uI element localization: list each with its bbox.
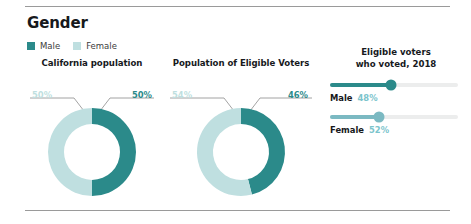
slider-panel-title-line1: Eligible voters (330, 46, 462, 58)
slider-group-male: Male 48% (330, 83, 462, 103)
slider-female[interactable] (330, 115, 458, 119)
donut-wrap-eligible: 54% 46% (162, 70, 320, 198)
female-swatch-icon (73, 42, 81, 50)
slider-male[interactable] (330, 83, 458, 87)
donut-label-female-eligible: 54% (172, 90, 192, 100)
slider-fill-female (330, 115, 379, 119)
donut-label-male-california: 50% (132, 90, 152, 100)
chart-eligible-voters-population: Population of Eligible Voters 54% 46% (162, 58, 320, 198)
page-title: Gender (27, 14, 88, 32)
top-divider (25, 6, 450, 7)
male-swatch-icon (27, 42, 35, 50)
donut-label-male-eligible: 46% (288, 90, 308, 100)
slider-group-female: Female 52% (330, 115, 462, 135)
slider-thumb-male[interactable] (386, 80, 397, 91)
slider-value-female: 52% (369, 125, 389, 135)
legend-item-female: Female (73, 41, 117, 51)
legend-item-male: Male (27, 41, 60, 51)
chart-title-eligible-voters-population: Population of Eligible Voters (162, 58, 320, 68)
slider-label-male: Male (330, 93, 353, 103)
gender-panel: Gender Male Female California population (0, 0, 471, 224)
donut-label-female-california: 50% (32, 90, 52, 100)
slider-legend-female: Female 52% (330, 125, 462, 135)
bottom-divider (25, 210, 450, 211)
legend: Male Female (27, 41, 117, 51)
legend-label-female: Female (86, 41, 117, 51)
slider-thumb-female[interactable] (373, 112, 384, 123)
eligible-voters-who-voted-panel: Eligible voters who voted, 2018 Male 48%… (330, 46, 462, 135)
slider-fill-male (330, 83, 391, 87)
donut-slice-female-california (48, 108, 92, 196)
donut-wrap-california: 50% 50% (22, 70, 162, 198)
chart-title-california-population: California population (22, 58, 162, 68)
slider-label-female: Female (330, 125, 364, 135)
slider-legend-male: Male 48% (330, 93, 462, 103)
slider-value-male: 48% (358, 93, 378, 103)
chart-california-population: California population 50% 50% (22, 58, 162, 198)
legend-label-male: Male (40, 41, 60, 51)
donut-slice-male-california (92, 108, 136, 196)
slider-panel-title-line2: who voted, 2018 (330, 58, 462, 70)
slider-panel-title: Eligible voters who voted, 2018 (330, 46, 462, 70)
